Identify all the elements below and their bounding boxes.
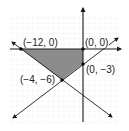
label-point-0-neg3: (0, −3) bbox=[85, 65, 116, 75]
vertex-point bbox=[60, 78, 64, 82]
label-point-origin: (0, 0) bbox=[84, 38, 109, 48]
label-point-neg4-neg6: (−4, −6) bbox=[19, 75, 56, 85]
label-point-neg12-0: (−12, 0) bbox=[22, 38, 59, 48]
